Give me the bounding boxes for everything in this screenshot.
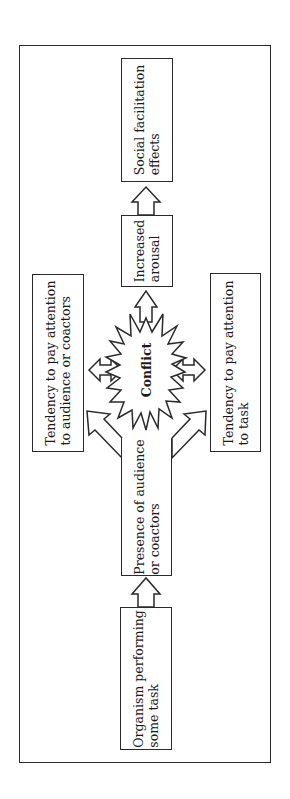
conflict-label: Conflict (139, 343, 154, 398)
node-label: to audience or coactors (58, 281, 73, 446)
node-attention-task: Tendency to pay attention to task (210, 273, 261, 452)
node-label: effects (147, 65, 162, 176)
arrow-arousal-to-facilitation-icon (132, 187, 160, 215)
node-label: Presence of audience (132, 439, 147, 575)
node-label: arousal (147, 220, 162, 283)
node-label: Tendency to pay attention (43, 281, 58, 446)
node-social-facilitation: Social facilitation effects (121, 58, 173, 182)
node-attention-audience: Tendency to pay attention to audience or… (32, 274, 84, 452)
node-label: Increased (132, 220, 147, 283)
node-organism: Organism performing some task (120, 607, 172, 750)
node-label: Social facilitation (132, 65, 147, 176)
node-label: Tendency to pay attention (221, 280, 236, 445)
node-presence: Presence of audience or coactors (121, 438, 172, 576)
node-increased-arousal: Increased arousal (121, 215, 173, 287)
node-label: to task (236, 280, 251, 445)
node-label: or coactors (147, 439, 162, 575)
node-label: Organism performing (131, 610, 146, 747)
node-label: some task (146, 610, 161, 747)
arrow-organism-to-presence-icon (132, 578, 160, 607)
